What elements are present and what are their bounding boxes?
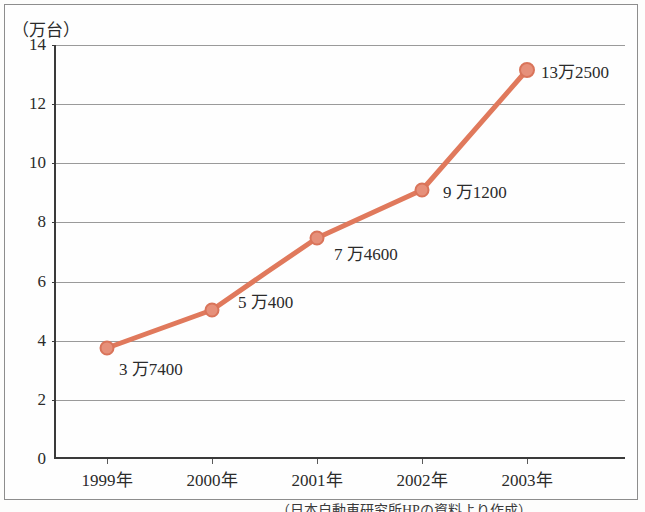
x-tick-label-1999: 1999年 xyxy=(82,466,133,491)
x-tick-label-2003: 2003年 xyxy=(502,466,553,491)
data-label-2002: 9 万1200 xyxy=(443,178,507,203)
gridline-8 xyxy=(56,222,625,223)
data-label-2003: 13万2500 xyxy=(541,58,609,83)
chart-page: （万台） 14 12 10 8 6 4 2 0 1999年 2000年 2001… xyxy=(0,0,645,512)
gridline-14 xyxy=(56,45,625,46)
x-tick-mark-2002 xyxy=(422,459,423,464)
x-tick-mark-2003 xyxy=(527,459,528,464)
y-tick-label-2: 2 xyxy=(14,390,46,410)
x-tick-label-2000: 2000年 xyxy=(187,466,238,491)
y-tick-label-8: 8 xyxy=(14,212,46,232)
source-caption: （日本自動車研究所HPの資料より作成） xyxy=(276,499,532,512)
x-tick-label-2002: 2002年 xyxy=(397,466,448,491)
x-tick-mark-1999 xyxy=(107,459,108,464)
y-tick-label-4: 4 xyxy=(14,331,46,351)
x-tick-mark-2000 xyxy=(212,459,213,464)
gridline-2 xyxy=(56,400,625,401)
data-label-1999: 3 万7400 xyxy=(119,355,183,380)
y-tick-label-10: 10 xyxy=(14,153,46,173)
y-tick-label-12: 12 xyxy=(14,94,46,114)
x-tick-mark-2001 xyxy=(317,459,318,464)
y-tick-label-0: 0 xyxy=(14,449,46,469)
gridline-12 xyxy=(56,104,625,105)
gridline-6 xyxy=(56,282,625,283)
x-tick-label-2001: 2001年 xyxy=(292,466,343,491)
y-tick-label-14: 14 xyxy=(14,35,46,55)
data-label-2000: 5 万400 xyxy=(238,288,293,313)
y-tick-label-6: 6 xyxy=(14,272,46,292)
gridline-4 xyxy=(56,341,625,342)
data-label-2001: 7 万4600 xyxy=(334,240,398,265)
gridline-10 xyxy=(56,163,625,164)
